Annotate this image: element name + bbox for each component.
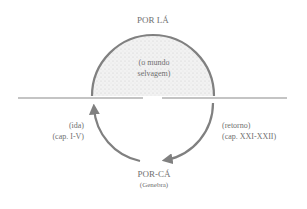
right-label-line1: (retorno) [222, 120, 302, 131]
bottom-label-title: POR-CÁ [122, 169, 186, 180]
right-label-retorno: (retorno) (cap. XXI-XXII) [222, 120, 302, 142]
left-label-ida: (ida) (cap. I-V) [28, 120, 84, 142]
inner-label: (o mundo selvagem) [118, 57, 190, 79]
return-arrow [166, 103, 213, 160]
inner-label-line1: (o mundo [118, 57, 190, 68]
top-label-por-la: POR LÁ [127, 15, 179, 26]
departure-arrow [94, 108, 140, 161]
left-label-line1: (ida) [28, 120, 84, 131]
inner-label-line2: selvagem) [118, 68, 190, 79]
right-label-line2: (cap. XXI-XXII) [222, 131, 302, 142]
left-label-line2: (cap. I-V) [28, 131, 84, 142]
bottom-label-subtitle: (Genebra) [122, 180, 186, 191]
bottom-label-por-ca: POR-CÁ (Genebra) [122, 169, 186, 191]
